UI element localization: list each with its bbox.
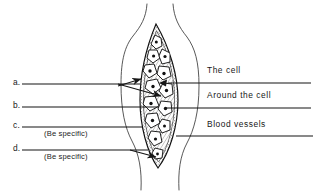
callout-label-around-the-cell: Around the cell <box>207 91 271 99</box>
anatomy-figure <box>0 0 327 193</box>
blank-marker-a: a. <box>13 78 20 86</box>
callout-label-the-cell: The cell <box>207 66 241 74</box>
blank-hint-d: (Be specific) <box>44 153 88 161</box>
blank-marker-c: c. <box>13 121 20 129</box>
blank-hint-c: (Be specific) <box>44 130 88 138</box>
leader-lines-left <box>22 84 158 150</box>
blank-marker-d: d. <box>13 144 20 152</box>
callout-label-blood-vessels: Blood vessels <box>207 120 266 128</box>
blank-marker-b: b. <box>13 101 20 109</box>
